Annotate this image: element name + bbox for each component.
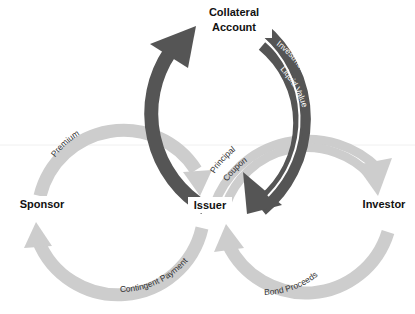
collateral-account-label-line1: Collateral xyxy=(209,6,259,18)
par-value-label: Par Value xyxy=(125,158,155,193)
collateral-account-label-line2: Account xyxy=(212,21,256,33)
issuer-label: Issuer xyxy=(194,199,227,211)
sponsor-label: Sponsor xyxy=(20,198,65,210)
contingent-payment-arrow xyxy=(24,222,202,295)
investor-label: Investor xyxy=(363,198,407,210)
cat-bond-diagram: Premium Contingent Payment Bond Proceeds… xyxy=(0,0,415,314)
